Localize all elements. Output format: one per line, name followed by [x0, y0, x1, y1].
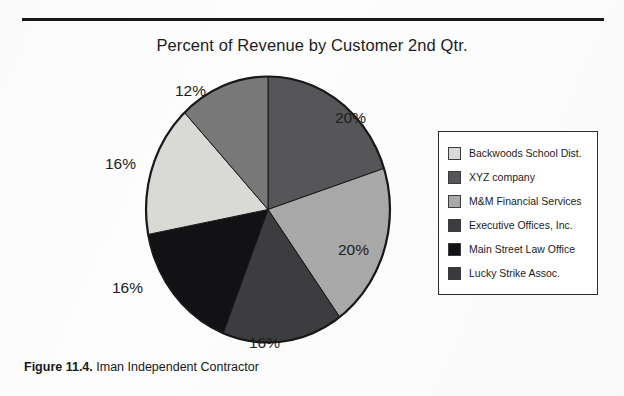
legend-item-label: Main Street Law Office [469, 244, 575, 255]
figure-page: Percent of Revenue by Customer 2nd Qtr. … [0, 0, 624, 396]
legend-item: Backwoods School Dist. [448, 141, 589, 165]
slice-label-main-street-law: 16% [112, 279, 143, 297]
legend-item: Main Street Law Office [448, 237, 589, 261]
slice-label-xyz-company: 20% [335, 109, 366, 127]
legend-item-label: M&M Financial Services [469, 196, 582, 207]
pie-chart-svg [118, 72, 418, 347]
legend-swatch-icon [448, 219, 461, 232]
figure-caption-text: Iman Independent Contractor [96, 360, 259, 374]
slice-label-lucky-strike: 12% [175, 82, 206, 100]
legend-item: M&M Financial Services [448, 189, 589, 213]
legend-item-label: Backwoods School Dist. [469, 148, 582, 159]
legend-swatch-icon [448, 147, 461, 160]
legend-swatch-icon [448, 171, 461, 184]
legend-item: Executive Offices, Inc. [448, 213, 589, 237]
top-horizontal-rule [22, 18, 604, 21]
legend-item: Lucky Strike Assoc. [448, 261, 589, 285]
legend-item: XYZ company [448, 165, 589, 189]
slice-label-mm-financial: 20% [338, 241, 369, 259]
figure-caption-number: Figure 11.4. [24, 360, 93, 374]
chart-legend: Backwoods School Dist. XYZ company M&M F… [438, 131, 598, 295]
legend-swatch-icon [448, 267, 461, 280]
legend-item-label: Executive Offices, Inc. [469, 220, 573, 231]
legend-item-label: XYZ company [469, 172, 535, 183]
chart-title: Percent of Revenue by Customer 2nd Qtr. [0, 36, 624, 55]
legend-swatch-icon [448, 195, 461, 208]
figure-caption: Figure 11.4. Iman Independent Contractor [24, 360, 259, 374]
legend-swatch-icon [448, 243, 461, 256]
slice-label-executive-offices: 16% [249, 334, 280, 352]
pie-chart [118, 72, 418, 347]
slice-label-backwoods-school: 16% [105, 155, 136, 173]
legend-item-label: Lucky Strike Assoc. [469, 268, 560, 279]
